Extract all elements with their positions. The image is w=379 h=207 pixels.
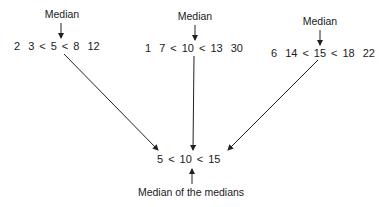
median-of-medians-label: Median of the medians bbox=[138, 186, 244, 198]
value: 3 bbox=[28, 40, 34, 52]
median-label-2: Median bbox=[178, 10, 212, 22]
less-than: < bbox=[197, 153, 203, 165]
value: 14 bbox=[285, 47, 297, 59]
number-row-1: 23<5<812 bbox=[14, 40, 100, 52]
medians-row: 5<10<15 bbox=[157, 153, 221, 165]
median-value: 15 bbox=[314, 47, 326, 59]
value: 15 bbox=[208, 153, 220, 165]
converge-arrow-3 bbox=[228, 60, 318, 150]
value: 2 bbox=[14, 40, 20, 52]
value: 1 bbox=[145, 42, 151, 54]
less-than: < bbox=[170, 42, 176, 54]
arrows-layer bbox=[0, 0, 379, 207]
median-value: 10 bbox=[182, 42, 194, 54]
less-than: < bbox=[331, 47, 337, 59]
converge-arrow-1 bbox=[64, 54, 158, 150]
value: 18 bbox=[343, 47, 355, 59]
less-than: < bbox=[39, 40, 45, 52]
value: 5 bbox=[157, 153, 163, 165]
value: 13 bbox=[210, 42, 222, 54]
less-than: < bbox=[62, 40, 68, 52]
less-than: < bbox=[168, 153, 174, 165]
number-row-2: 17<10<1330 bbox=[145, 42, 243, 54]
value: 6 bbox=[271, 47, 277, 59]
value: 7 bbox=[159, 42, 165, 54]
median-label-3: Median bbox=[303, 15, 337, 27]
value: 22 bbox=[363, 47, 375, 59]
number-row-3: 614<15<1822 bbox=[271, 47, 375, 59]
median-label-1: Median bbox=[45, 8, 79, 20]
value: 30 bbox=[231, 42, 243, 54]
converge-arrow-2 bbox=[193, 56, 194, 150]
median-value: 5 bbox=[51, 40, 57, 52]
less-than: < bbox=[302, 47, 308, 59]
value: 12 bbox=[87, 40, 99, 52]
median-of-medians-value: 10 bbox=[180, 153, 192, 165]
value: 8 bbox=[73, 40, 79, 52]
less-than: < bbox=[199, 42, 205, 54]
